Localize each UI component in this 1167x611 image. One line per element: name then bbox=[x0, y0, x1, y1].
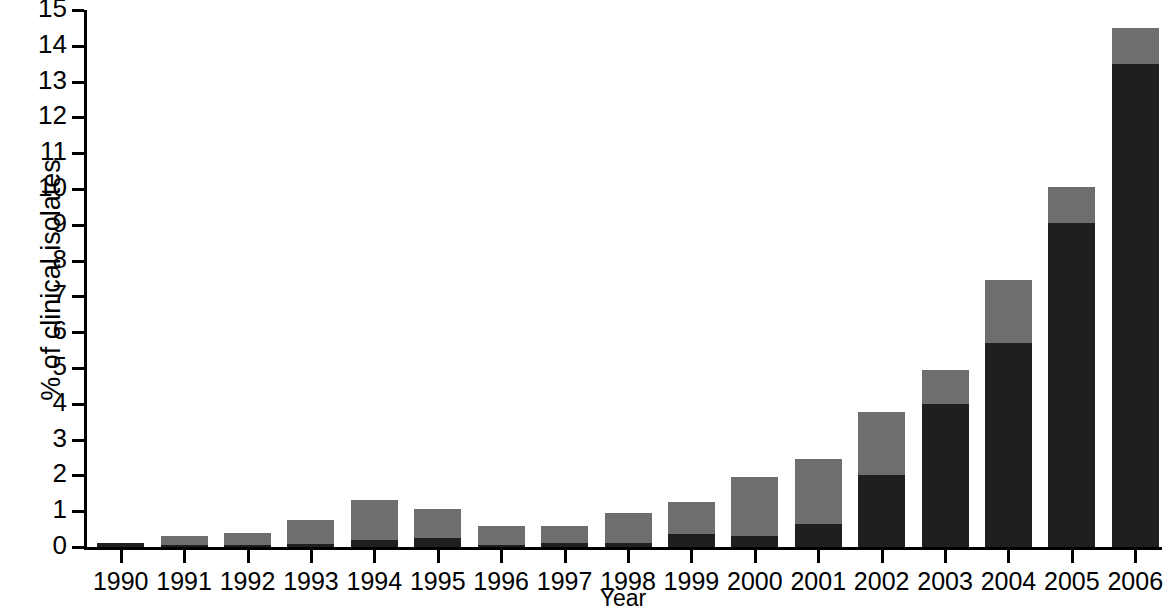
x-tick-mark bbox=[1071, 550, 1074, 563]
x-tick-mark bbox=[310, 550, 313, 563]
y-tick-label: 3 bbox=[5, 423, 67, 453]
bar bbox=[605, 513, 652, 547]
bar-segment-dark bbox=[858, 475, 905, 547]
x-tick-mark bbox=[183, 550, 186, 563]
bar-segment-dark bbox=[922, 404, 969, 547]
y-tick-mark bbox=[72, 546, 84, 549]
y-tick-label: 8 bbox=[5, 244, 67, 274]
y-tick-label: 0 bbox=[5, 530, 67, 560]
x-tick-mark bbox=[373, 550, 376, 563]
bar-segment-dark bbox=[731, 536, 778, 547]
bar bbox=[985, 280, 1032, 547]
x-tick-mark bbox=[754, 550, 757, 563]
y-tick-mark bbox=[72, 116, 84, 119]
y-tick-mark bbox=[72, 367, 84, 370]
bar-segment-gray bbox=[351, 500, 398, 539]
bar-segment-dark bbox=[287, 544, 334, 547]
bar-segment-dark bbox=[541, 543, 588, 547]
bar bbox=[668, 502, 715, 547]
x-tick-mark bbox=[500, 550, 503, 563]
x-tick-mark bbox=[564, 550, 567, 563]
x-tick-mark bbox=[627, 550, 630, 563]
y-tick-mark bbox=[72, 224, 84, 227]
y-tick-label: 1 bbox=[5, 494, 67, 524]
bar-segment-gray bbox=[605, 513, 652, 543]
y-tick-label: 15 bbox=[5, 0, 67, 23]
y-tick-mark bbox=[72, 9, 84, 12]
x-tick-mark bbox=[1134, 550, 1137, 563]
y-tick-label: 13 bbox=[5, 65, 67, 95]
y-tick-label: 10 bbox=[5, 172, 67, 202]
x-tick-mark bbox=[690, 550, 693, 563]
y-tick-label: 11 bbox=[5, 136, 67, 166]
bar bbox=[858, 412, 905, 547]
bar-segment-gray bbox=[1112, 28, 1159, 64]
bar bbox=[351, 500, 398, 547]
bar-segment-gray bbox=[731, 477, 778, 536]
y-tick-mark bbox=[72, 188, 84, 191]
bar-segment-gray bbox=[287, 520, 334, 544]
bar-segment-dark bbox=[224, 545, 271, 547]
bar-segment-dark bbox=[795, 524, 842, 547]
bar bbox=[224, 533, 271, 547]
bar-segment-gray bbox=[668, 502, 715, 534]
bar-segment-gray bbox=[161, 536, 208, 545]
x-tick-mark bbox=[120, 550, 123, 563]
y-tick-label: 4 bbox=[5, 387, 67, 417]
bar bbox=[414, 509, 461, 547]
bar-segment-dark bbox=[414, 538, 461, 547]
bar-segment-dark bbox=[97, 543, 144, 547]
bar-segment-gray bbox=[858, 412, 905, 475]
x-tick-mark bbox=[817, 550, 820, 563]
y-tick-mark bbox=[72, 403, 84, 406]
plot-area: 0123456789101112131415 19901991199219931… bbox=[84, 10, 1162, 547]
bar bbox=[795, 459, 842, 547]
bar bbox=[922, 370, 969, 547]
bar-segment-gray bbox=[541, 526, 588, 544]
bar-segment-dark bbox=[668, 534, 715, 547]
y-tick-mark bbox=[72, 260, 84, 263]
y-tick-label: 9 bbox=[5, 208, 67, 238]
bar-segment-dark bbox=[161, 545, 208, 547]
bar bbox=[287, 520, 334, 547]
y-tick-label: 14 bbox=[5, 29, 67, 59]
y-tick-mark bbox=[72, 295, 84, 298]
bar bbox=[97, 543, 144, 547]
y-tick-label: 7 bbox=[5, 279, 67, 309]
bar-segment-gray bbox=[795, 459, 842, 523]
bar bbox=[731, 477, 778, 547]
bar bbox=[161, 536, 208, 547]
bar-segment-dark bbox=[1112, 64, 1159, 547]
y-tick-mark bbox=[72, 439, 84, 442]
y-tick-label: 6 bbox=[5, 315, 67, 345]
bar-segment-dark bbox=[605, 543, 652, 547]
bar bbox=[1112, 28, 1159, 547]
bar-segment-dark bbox=[478, 545, 525, 547]
x-tick-mark bbox=[944, 550, 947, 563]
bar-segment-gray bbox=[478, 526, 525, 546]
y-tick-mark bbox=[72, 45, 84, 48]
x-tick-mark bbox=[247, 550, 250, 563]
x-tick-mark bbox=[1007, 550, 1010, 563]
bar-segment-gray bbox=[985, 280, 1032, 343]
y-tick-label: 2 bbox=[5, 458, 67, 488]
bar-segment-gray bbox=[1048, 187, 1095, 223]
y-tick-mark bbox=[72, 510, 84, 513]
bar bbox=[478, 526, 525, 547]
bar-segment-gray bbox=[414, 509, 461, 538]
bar bbox=[1048, 187, 1095, 547]
y-tick-mark bbox=[72, 81, 84, 84]
y-tick-label: 5 bbox=[5, 351, 67, 381]
y-tick-mark bbox=[72, 474, 84, 477]
bar-segment-gray bbox=[224, 533, 271, 546]
y-tick-mark bbox=[72, 152, 84, 155]
y-axis-line bbox=[84, 10, 87, 550]
bar bbox=[541, 526, 588, 547]
bar-segment-dark bbox=[985, 343, 1032, 547]
x-tick-mark bbox=[881, 550, 884, 563]
bar-segment-dark bbox=[351, 540, 398, 547]
y-tick-mark bbox=[72, 331, 84, 334]
bar-segment-dark bbox=[1048, 223, 1095, 547]
x-axis-title: Year bbox=[84, 585, 1162, 611]
